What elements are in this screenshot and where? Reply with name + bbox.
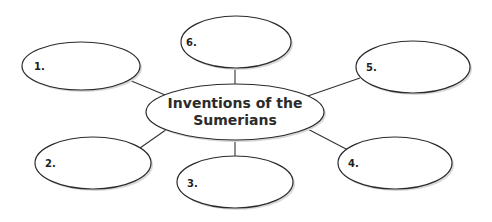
node-2[interactable]: 2. bbox=[35, 137, 153, 191]
connector-1 bbox=[129, 80, 170, 97]
node-1[interactable]: 1. bbox=[22, 42, 142, 92]
node-6[interactable]: 6. bbox=[181, 16, 293, 70]
node-4-label: 4. bbox=[348, 158, 359, 169]
idea-web-diagram: 1. 6. 5. 2. 3. 4. Inventions of the Sume… bbox=[0, 0, 492, 222]
connector-5 bbox=[302, 78, 360, 98]
node-2-label: 2. bbox=[45, 158, 56, 169]
node-5[interactable]: 5. bbox=[356, 41, 472, 95]
center-node: Inventions of the Sumerians bbox=[146, 84, 326, 142]
node-4[interactable]: 4. bbox=[338, 137, 454, 191]
node-6-label: 6. bbox=[186, 37, 197, 48]
node-1-label: 1. bbox=[34, 61, 45, 72]
center-title-line1: Inventions of the bbox=[168, 95, 303, 111]
node-3-label: 3. bbox=[187, 178, 198, 189]
node-5-label: 5. bbox=[366, 62, 377, 73]
node-3[interactable]: 3. bbox=[177, 156, 295, 210]
center-title-line2: Sumerians bbox=[193, 112, 277, 128]
